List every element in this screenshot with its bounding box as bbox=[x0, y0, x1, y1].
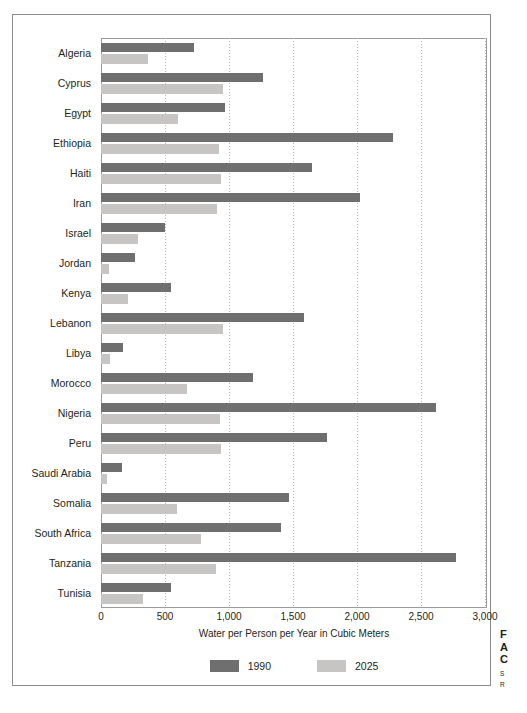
bar-group bbox=[101, 69, 487, 97]
bar-2025 bbox=[101, 264, 109, 274]
bar-group bbox=[101, 579, 487, 607]
bar-1990 bbox=[101, 103, 225, 113]
legend-item-2025: 2025 bbox=[317, 660, 378, 672]
legend: 1990 2025 bbox=[101, 660, 487, 672]
y-axis-label: Algeria bbox=[12, 39, 98, 67]
bar-2025 bbox=[101, 234, 138, 244]
caption-small-1: S bbox=[500, 670, 527, 678]
bar-2025 bbox=[101, 114, 178, 124]
y-axis-label: Nigeria bbox=[12, 399, 98, 427]
y-axis-label: Libya bbox=[12, 339, 98, 367]
y-axis-label: Kenya bbox=[12, 279, 98, 307]
bar-1990 bbox=[101, 73, 263, 83]
bar-1990 bbox=[101, 253, 135, 263]
bar-1990 bbox=[101, 43, 194, 53]
legend-label-2025: 2025 bbox=[355, 660, 378, 672]
y-axis-label: Lebanon bbox=[12, 309, 98, 337]
bar-2025 bbox=[101, 204, 217, 214]
y-axis-label: Morocco bbox=[12, 369, 98, 397]
bar-2025 bbox=[101, 324, 223, 334]
x-tick-label: 2,000 bbox=[344, 611, 369, 622]
bar-2025 bbox=[101, 474, 107, 484]
bar-group bbox=[101, 369, 487, 397]
y-axis-label: Egypt bbox=[12, 99, 98, 127]
x-tick-label: 500 bbox=[157, 611, 174, 622]
bar-2025 bbox=[101, 84, 223, 94]
bar-group bbox=[101, 339, 487, 367]
bar-1990 bbox=[101, 523, 281, 533]
bar-1990 bbox=[101, 343, 123, 353]
bar-1990 bbox=[101, 583, 171, 593]
bar-group bbox=[101, 549, 487, 577]
x-tick-label: 3,000 bbox=[472, 611, 497, 622]
y-axis-label: Peru bbox=[12, 429, 98, 457]
bar-group bbox=[101, 189, 487, 217]
x-tick-label: 1,500 bbox=[280, 611, 305, 622]
bar-group bbox=[101, 159, 487, 187]
bar-group bbox=[101, 279, 487, 307]
y-axis-label: Tunisia bbox=[12, 579, 98, 607]
legend-label-1990: 1990 bbox=[248, 660, 271, 672]
y-axis-label: Tanzania bbox=[12, 549, 98, 577]
bar-1990 bbox=[101, 313, 304, 323]
y-axis-labels: AlgeriaCyprusEgyptEthiopiaHaitiIranIsrae… bbox=[12, 38, 98, 608]
y-axis-label: Iran bbox=[12, 189, 98, 217]
bar-1990 bbox=[101, 133, 393, 143]
bar-2025 bbox=[101, 444, 221, 454]
bar-2025 bbox=[101, 534, 201, 544]
bar-2025 bbox=[101, 174, 221, 184]
side-caption: F A C S R bbox=[500, 628, 527, 689]
bar-2025 bbox=[101, 594, 143, 604]
legend-item-1990: 1990 bbox=[210, 660, 271, 672]
x-tick-label: 1,000 bbox=[216, 611, 241, 622]
bar-2025 bbox=[101, 414, 220, 424]
x-axis-title: Water per Person per Year in Cubic Meter… bbox=[101, 628, 487, 639]
bar-group bbox=[101, 129, 487, 157]
bar-2025 bbox=[101, 54, 148, 64]
bar-1990 bbox=[101, 463, 122, 473]
y-axis-label: Somalia bbox=[12, 489, 98, 517]
bar-group bbox=[101, 39, 487, 67]
x-tick-label: 2,500 bbox=[408, 611, 433, 622]
bar-rows bbox=[101, 38, 487, 608]
bar-1990 bbox=[101, 223, 165, 233]
bar-1990 bbox=[101, 373, 253, 383]
caption-line-2: A bbox=[500, 641, 527, 654]
caption-line-3: C bbox=[500, 653, 527, 666]
bar-group bbox=[101, 489, 487, 517]
y-axis-label: Saudi Arabia bbox=[12, 459, 98, 487]
bar-2025 bbox=[101, 564, 216, 574]
bar-2025 bbox=[101, 354, 110, 364]
bar-group bbox=[101, 429, 487, 457]
bar-1990 bbox=[101, 283, 171, 293]
y-axis-label: Ethiopia bbox=[12, 129, 98, 157]
caption-line-1: F bbox=[500, 628, 527, 641]
y-axis-label: Haiti bbox=[12, 159, 98, 187]
bar-group bbox=[101, 309, 487, 337]
bar-2025 bbox=[101, 384, 187, 394]
legend-swatch-1990 bbox=[210, 660, 239, 672]
y-axis-label: Jordan bbox=[12, 249, 98, 277]
bar-1990 bbox=[101, 433, 327, 443]
bar-group bbox=[101, 99, 487, 127]
bar-group bbox=[101, 459, 487, 487]
bar-1990 bbox=[101, 163, 312, 173]
bar-1990 bbox=[101, 403, 436, 413]
x-tick-label: 0 bbox=[98, 611, 104, 622]
y-axis-label: Israel bbox=[12, 219, 98, 247]
legend-swatch-2025 bbox=[317, 660, 346, 672]
bar-1990 bbox=[101, 493, 289, 503]
bar-group bbox=[101, 519, 487, 547]
bar-2025 bbox=[101, 144, 219, 154]
bar-group bbox=[101, 219, 487, 247]
bar-2025 bbox=[101, 294, 128, 304]
chart-page: AlgeriaCyprusEgyptEthiopiaHaitiIranIsrae… bbox=[0, 0, 527, 713]
x-axis-ticks: 05001,0001,5002,0002,5003,000 bbox=[101, 611, 487, 625]
y-axis-label: South Africa bbox=[12, 519, 98, 547]
caption-small-2: R bbox=[500, 681, 527, 689]
bar-group bbox=[101, 399, 487, 427]
y-axis-label: Cyprus bbox=[12, 69, 98, 97]
bar-1990 bbox=[101, 553, 456, 563]
plot-area bbox=[101, 38, 487, 608]
bar-2025 bbox=[101, 504, 177, 514]
